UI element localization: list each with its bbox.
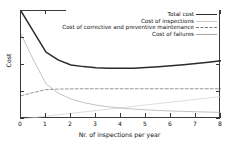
legend-item: Cost of failures	[68, 31, 217, 38]
x-tick-label: 0	[13, 120, 27, 128]
legend-item-label: Cost of failures	[152, 31, 196, 38]
x-tick-mark	[70, 113, 71, 118]
x-tick-mark	[195, 113, 196, 118]
legend-line-sample	[196, 31, 217, 37]
legend-item: Cost of corrective and preventive mainte…	[68, 24, 217, 31]
y-tick-mark-right	[216, 64, 220, 65]
x-tick-label: 1	[38, 120, 52, 128]
y-tick-mark-right	[216, 91, 220, 92]
y-tick-mark	[20, 91, 24, 92]
legend-item-label: Cost of corrective and preventive mainte…	[62, 24, 196, 31]
y-tick-mark	[20, 64, 24, 65]
legend-line-sample	[196, 24, 217, 30]
series-line	[21, 34, 221, 112]
legend-line-sample	[196, 18, 217, 24]
y-tick-mark	[20, 118, 24, 119]
x-tick-mark	[170, 113, 171, 118]
x-tick-label: 5	[138, 120, 152, 128]
y-tick-mark	[20, 10, 24, 11]
x-tick-label: 4	[113, 120, 127, 128]
x-tick-label: 8	[213, 120, 227, 128]
cost-vs-inspections-chart: 012345678 Nr. of inspections per year Co…	[0, 0, 239, 146]
x-axis-label: Nr. of inspections per year	[0, 130, 239, 139]
x-tick-label: 3	[88, 120, 102, 128]
legend-item-label: Cost of inspections	[141, 18, 196, 25]
x-tick-label: 6	[163, 120, 177, 128]
y-tick-mark-right	[216, 118, 220, 119]
x-tick-mark	[145, 113, 146, 118]
y-axis-label: Cost	[4, 41, 13, 81]
x-tick-mark	[220, 113, 221, 118]
x-tick-mark-top	[220, 10, 221, 14]
legend-line-sample	[196, 11, 217, 17]
legend-item: Total cost	[68, 11, 217, 18]
y-tick-mark	[20, 37, 24, 38]
legend-item: Cost of inspections	[68, 18, 217, 25]
x-tick-label: 2	[63, 120, 77, 128]
x-tick-mark	[120, 113, 121, 118]
x-tick-mark-top	[45, 10, 46, 14]
series-line	[21, 89, 221, 96]
legend-item-label: Total cost	[168, 11, 196, 18]
x-tick-mark	[95, 113, 96, 118]
x-tick-label: 7	[188, 120, 202, 128]
x-tick-mark	[45, 113, 46, 118]
chart-legend: Total costCost of inspectionsCost of cor…	[66, 10, 219, 39]
